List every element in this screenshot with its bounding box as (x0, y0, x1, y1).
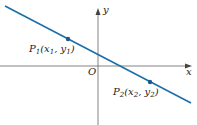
y-axis-label: y (102, 4, 109, 15)
point-p1 (66, 37, 70, 41)
coordinate-plane: y x O P1(x1, y1) P2(x2, y2) (0, 0, 197, 125)
point-p1-label: P1(x1, y1) (28, 43, 75, 56)
origin-label: O (88, 66, 96, 77)
y-axis-arrow-icon (96, 8, 101, 15)
point-p2-label: P2(x2, y2) (112, 86, 159, 99)
point-p2 (148, 80, 152, 84)
x-axis-label: x (186, 66, 192, 77)
